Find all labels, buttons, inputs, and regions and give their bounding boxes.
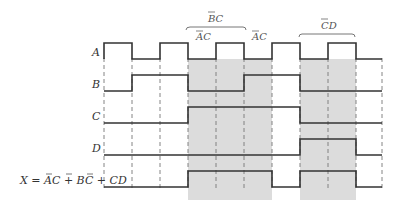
svg-text:CD: CD bbox=[321, 20, 337, 31]
timing-diagram: A B C D X = AC + BC + CD BC AC AC CD bbox=[0, 0, 399, 200]
label-x-equation: X = AC + BC + CD bbox=[19, 174, 127, 187]
svg-text:BC: BC bbox=[207, 13, 224, 24]
annotation-ac-2: AC bbox=[251, 31, 267, 42]
label-d: D bbox=[91, 142, 101, 155]
annotation-ac-1: AC bbox=[195, 31, 211, 42]
svg-text:AC: AC bbox=[251, 31, 267, 42]
svg-text:X = AC + BC + CD: X = AC + BC + CD bbox=[19, 174, 127, 187]
label-c: C bbox=[92, 110, 101, 123]
annotation-cd: CD bbox=[299, 19, 355, 37]
label-a: A bbox=[91, 46, 100, 59]
label-b: B bbox=[91, 78, 100, 91]
svg-text:AC: AC bbox=[195, 31, 211, 42]
annotation-bc: BC bbox=[186, 12, 246, 30]
waveform-a bbox=[104, 43, 382, 59]
